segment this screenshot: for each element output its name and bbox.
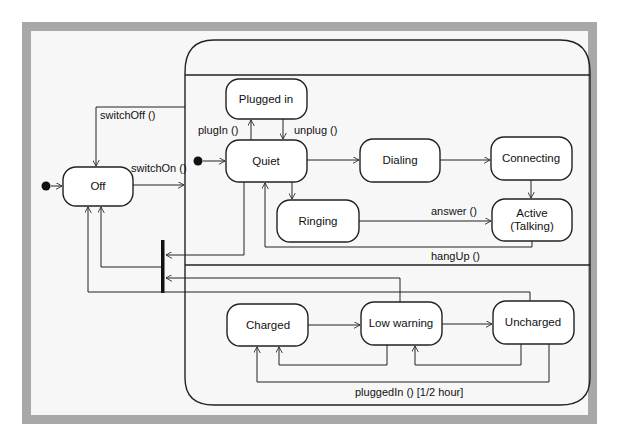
state-quiet[interactable]: Quiet [226, 140, 307, 182]
state-label: Low warning [369, 317, 434, 329]
state-label: Dialing [382, 154, 417, 166]
state-plugged-in[interactable]: Plugged in [226, 79, 307, 119]
state-label: Active [516, 207, 547, 219]
transition-label: hangUp () [431, 250, 480, 262]
state-uncharged[interactable]: Uncharged [493, 301, 574, 344]
state-active-talking[interactable]: Active (Talking) [492, 199, 572, 241]
state-label: Charged [246, 319, 290, 331]
transition-label: unplug () [294, 124, 337, 136]
transition-label: switchOff () [100, 109, 155, 121]
initial-state-icon [42, 182, 51, 191]
state-label: Plugged in [239, 93, 293, 105]
state-label: Off [90, 180, 106, 192]
state-label: Ringing [299, 215, 338, 227]
state-diagram: Off Plugged in Quiet Dialing Connecting … [0, 0, 631, 443]
state-low-warning[interactable]: Low warning [361, 302, 442, 345]
transition-label: pluggedIn () [1/2 hour] [355, 386, 463, 398]
join-bar [161, 240, 165, 293]
state-off[interactable]: Off [63, 167, 133, 206]
state-sublabel: (Talking) [510, 220, 554, 232]
state-label: Connecting [502, 152, 560, 164]
state-label: Uncharged [505, 316, 561, 328]
state-ringing[interactable]: Ringing [277, 200, 359, 242]
initial-state-icon [194, 157, 203, 166]
transition-label: plugIn () [198, 124, 238, 136]
state-dialing[interactable]: Dialing [360, 139, 440, 182]
transition-label: switchOn () [131, 162, 187, 174]
state-connecting[interactable]: Connecting [491, 137, 572, 180]
transition-label: answer () [431, 205, 477, 217]
state-charged[interactable]: Charged [227, 304, 308, 346]
state-label: Quiet [252, 155, 280, 167]
